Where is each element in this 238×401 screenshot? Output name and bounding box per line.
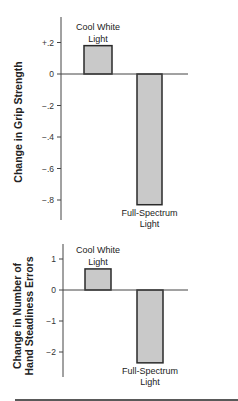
- category-label: Light: [140, 377, 160, 387]
- category-label: Cool White: [76, 245, 120, 255]
- bar-cool-white: [85, 269, 111, 290]
- y-tick-label: 0: [49, 69, 54, 79]
- grip-strength-chart: +.20−.2−.4−.6−.8Cool WhiteLightFull-Spec…: [12, 17, 188, 229]
- y-tick-label: 1: [51, 254, 56, 264]
- y-tick-label: −.6: [42, 164, 54, 174]
- y-tick-label: −.2: [42, 101, 54, 111]
- category-label: Light: [88, 34, 108, 44]
- y-tick-label: −2: [46, 347, 56, 357]
- hand-steadiness-chart: 10−1−2Cool WhiteLightFull-SpectrumLightC…: [11, 244, 188, 387]
- y-tick-label: −.8: [42, 195, 54, 205]
- y-tick-label: +.2: [42, 38, 54, 48]
- bar-full-spectrum: [137, 74, 162, 205]
- y-tick-label: −1: [46, 316, 56, 326]
- category-label: Full-Spectrum: [122, 366, 178, 376]
- category-label: Full-Spectrum: [121, 208, 177, 218]
- bar-cool-white: [84, 46, 112, 74]
- y-axis-label: Hand Steadiness Errors: [23, 256, 35, 375]
- category-label: Cool White: [76, 22, 120, 32]
- bar-full-spectrum: [137, 290, 163, 363]
- y-tick-label: −.4: [42, 132, 54, 142]
- y-axis-label: Change in Grip Strength: [12, 61, 24, 182]
- category-label: Light: [88, 257, 108, 267]
- category-label: Light: [140, 219, 160, 229]
- y-axis-label: Change in Number of: [11, 262, 23, 369]
- figure: +.20−.2−.4−.6−.8Cool WhiteLightFull-Spec…: [0, 0, 238, 401]
- y-tick-label: 0: [51, 285, 56, 295]
